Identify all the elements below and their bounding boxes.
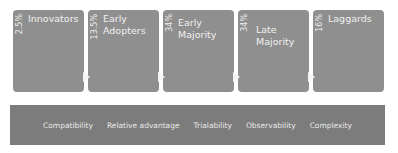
stage-label: Late Majority: [256, 24, 306, 48]
stage-innovators: 2.5% Innovators: [13, 10, 84, 92]
stage-label: Laggards: [328, 13, 372, 25]
stage-percent: 2.5%: [15, 14, 24, 34]
arrow-icon: [158, 72, 165, 82]
stage-early-adopters: 13.5% Early Adopters: [88, 10, 159, 92]
stage-label: Early Majority: [178, 17, 228, 41]
stage-label: Early Adopters: [103, 13, 153, 37]
stage-early-majority: 34% Early Majority: [163, 10, 234, 92]
arrow-icon: [83, 72, 90, 82]
attribute-label: Trialability: [194, 121, 232, 130]
stage-laggards: 16% Laggards: [313, 10, 384, 92]
stage-label: Innovators: [28, 13, 79, 25]
arrow-icon: [233, 72, 240, 82]
attributes-bar: Compatibility Relative advantage Trialab…: [10, 105, 385, 145]
stage-percent: 34%: [240, 14, 249, 32]
attribute-label: Compatibility: [43, 121, 93, 130]
stage-percent: 34%: [165, 14, 174, 32]
attribute-label: Relative advantage: [107, 121, 180, 130]
arrow-icon: [308, 72, 315, 82]
attribute-label: Observability: [246, 121, 296, 130]
stage-percent: 16%: [315, 14, 324, 32]
attribute-label: Complexity: [310, 121, 352, 130]
stage-percent: 13.5%: [90, 14, 99, 39]
stage-late-majority: 34% Late Majority: [238, 10, 309, 92]
